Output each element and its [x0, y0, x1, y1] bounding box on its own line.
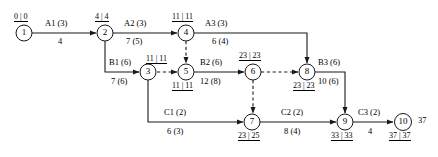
activity-label-c1: C1 (2)	[164, 108, 186, 117]
node-times-6: 23 | 23	[239, 52, 261, 61]
node-times-9: 33 | 33	[331, 132, 353, 141]
node-times-7: 23 | 25	[238, 132, 260, 141]
node-times-4: 11 | 11	[172, 13, 193, 22]
activity-value-c3: 4	[368, 127, 372, 136]
node-label-6: 6	[245, 67, 261, 76]
node-times-5: 11 | 11	[172, 82, 193, 91]
network-diagram: 1 2 3 4 5 6 7 8 9 10 0 | 0 4 | 4 11 | 11…	[0, 0, 438, 157]
activity-label-c3: C3 (2)	[358, 108, 380, 117]
node-label-7: 7	[244, 117, 260, 126]
activity-value-b1: 7 (6)	[111, 77, 127, 86]
activity-value-b3: 10 (6)	[318, 77, 339, 86]
node-label-2: 2	[97, 28, 113, 37]
node-label-10: 10	[394, 117, 412, 126]
edge-c1	[148, 80, 243, 122]
node-label-9: 9	[337, 117, 353, 126]
node-times-10: 37 | 37	[389, 132, 411, 141]
activity-label-a3: A3 (3)	[205, 19, 227, 28]
activity-label-b3: B3 (6)	[318, 58, 340, 67]
node-times-3: 11 | 11	[146, 55, 167, 64]
activity-value-a1: 4	[58, 37, 62, 46]
node-label-8: 8	[299, 67, 315, 76]
activity-label-a2: A2 (3)	[124, 19, 146, 28]
activity-value-b2: 12 (8)	[200, 77, 221, 86]
node-label-4: 4	[178, 28, 194, 37]
node-label-1: 1	[16, 28, 32, 37]
activity-label-a1: A1 (3)	[45, 19, 67, 28]
activity-value-c1: 6 (3)	[167, 127, 183, 136]
activity-value-c2: 8 (4)	[284, 127, 300, 136]
activity-value-a3: 6 (4)	[212, 37, 228, 46]
node-label-5: 5	[178, 67, 194, 76]
activity-label-b1: B1 (6)	[109, 58, 131, 67]
node-times-2: 4 | 4	[95, 13, 109, 22]
activity-value-a2: 7 (5)	[126, 37, 142, 46]
project-duration-annotation: 37	[418, 116, 427, 125]
activity-label-b2: B2 (6)	[200, 58, 222, 67]
activity-label-c2: C2 (2)	[281, 108, 303, 117]
node-label-3: 3	[140, 67, 156, 76]
node-times-8: 23 | 23	[293, 82, 315, 91]
node-times-1: 0 | 0	[14, 13, 28, 22]
